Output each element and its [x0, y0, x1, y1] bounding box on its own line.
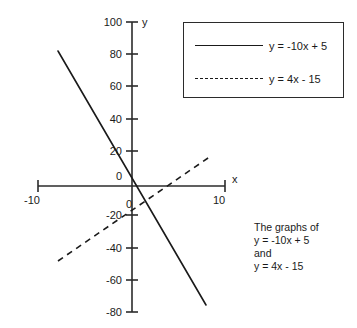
x-tick-label-10: 10: [213, 195, 225, 206]
figure-caption: The graphs of y = -10x + 5 and y = 4x - …: [254, 221, 357, 273]
y-tick-label-80: 80: [96, 49, 122, 60]
y-tick-label-40: 40: [96, 114, 122, 125]
origin-label: 0: [126, 199, 132, 210]
x-axis-label: x: [232, 174, 238, 185]
legend-label-dashed: y = 4x - 15: [269, 73, 321, 85]
y-tick-label-60: 60: [96, 81, 122, 92]
graph-figure: 100 80 60 40 20 0 -20 -40 -60 -80 0 -10 …: [0, 0, 357, 328]
legend-label-solid: y = -10x + 5: [269, 40, 327, 52]
y-tick-label-minus20: -20: [96, 210, 122, 221]
legend: y = -10x + 5 y = 4x - 15: [183, 22, 344, 98]
x-tick-label-minus10: -10: [24, 195, 40, 206]
series-line-dashed: [58, 156, 211, 261]
y-axis-label: y: [142, 17, 148, 28]
legend-swatch-solid-line-icon: [195, 41, 263, 51]
y-tick-label-minus60: -60: [96, 275, 122, 286]
y-tick-label-0: 0: [96, 171, 122, 182]
legend-entry-solid: y = -10x + 5: [184, 38, 343, 54]
y-tick-label-minus80: -80: [96, 307, 122, 318]
legend-entry-dashed: y = 4x - 15: [184, 71, 343, 87]
y-tick-label-minus40: -40: [96, 243, 122, 254]
y-tick-label-100: 100: [96, 17, 122, 28]
y-tick-label-20: 20: [96, 146, 122, 157]
legend-swatch-dashed-line-icon: [195, 74, 263, 84]
